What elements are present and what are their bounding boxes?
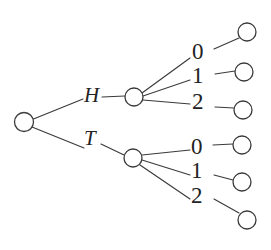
edge-tails-to-0 <box>142 150 190 155</box>
edge-1-to-leaf-h1 <box>215 71 235 74</box>
edge-tails-to-1 <box>142 160 190 175</box>
tails-node[interactable] <box>124 149 142 167</box>
edge-heads-to-2 <box>143 100 190 104</box>
branch-label-tails-1: 1 <box>191 159 203 182</box>
leaf-node-t2[interactable] <box>238 211 256 229</box>
edge-heads-label-to-heads-node <box>102 96 125 97</box>
branch-label-tails-0: 0 <box>191 135 203 158</box>
leaf-node-t1[interactable] <box>233 173 251 191</box>
branch-label-heads-2: 2 <box>192 90 204 113</box>
edge-layer <box>32 38 239 213</box>
branch-label-tails: T <box>84 128 96 149</box>
branch-label-heads: H <box>84 85 99 106</box>
branch-label-heads-1: 1 <box>192 64 204 87</box>
edge-0-to-leaf-t0 <box>213 144 233 145</box>
edge-2-to-leaf-t2 <box>214 199 239 213</box>
edge-tails-to-2 <box>140 165 190 199</box>
edge-0-to-leaf-h0 <box>214 38 239 49</box>
leaf-node-h0[interactable] <box>238 23 256 41</box>
leaf-node-h2[interactable] <box>234 101 252 119</box>
branch-label-heads-0: 0 <box>192 40 204 63</box>
edge-root-to-tails <box>32 127 84 148</box>
heads-node[interactable] <box>125 88 143 106</box>
root-node[interactable] <box>15 113 34 132</box>
probability-tree-diagram: HT012012 <box>0 0 271 250</box>
branch-label-tails-2: 2 <box>191 184 203 207</box>
edge-1-to-leaf-t1 <box>214 175 233 180</box>
node-layer <box>15 23 257 229</box>
leaf-node-t0[interactable] <box>233 136 251 154</box>
leaf-node-h1[interactable] <box>235 63 253 81</box>
edge-root-to-heads <box>34 99 84 119</box>
edge-tails-label-to-tails-node <box>101 144 124 155</box>
tree-canvas <box>0 0 271 250</box>
edge-heads-to-1 <box>143 80 190 96</box>
edge-2-to-leaf-h2 <box>215 107 234 108</box>
